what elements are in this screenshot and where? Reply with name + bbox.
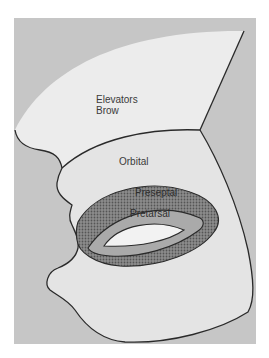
- label-pretarsal: Pretarsal: [130, 208, 170, 219]
- label-preseptal: Preseptal: [135, 187, 177, 198]
- label-elevators: Elevators: [96, 94, 138, 105]
- label-orbital: Orbital: [119, 156, 148, 167]
- label-brow: Brow: [96, 105, 120, 116]
- orbicularis-diagram: Elevators Brow Orbital Preseptal Pretars…: [0, 0, 269, 358]
